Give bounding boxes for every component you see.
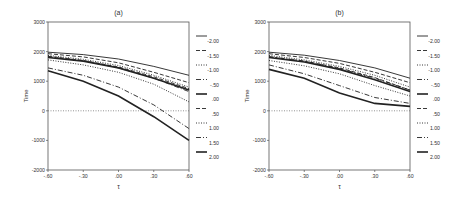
y-tick-label: 2000 xyxy=(254,49,266,55)
x-axis-label: τ xyxy=(338,183,341,190)
legend-label: -2.00 xyxy=(428,38,440,44)
legend-label: -1.00 xyxy=(428,67,440,73)
y-tick-label: 0 xyxy=(42,108,45,114)
y-tick-label: 3000 xyxy=(33,19,45,25)
y-tick-label: -1000 xyxy=(253,137,266,143)
legend-label: .50 xyxy=(433,111,440,117)
x-tick-label: -.30 xyxy=(79,173,88,179)
x-tick-label: -.60 xyxy=(44,173,53,179)
x-tick-label: .30 xyxy=(371,173,378,179)
panel-title: (a) xyxy=(114,9,123,17)
legend-label: -1.00 xyxy=(207,67,219,73)
legend-label: .50 xyxy=(212,111,219,117)
legend-label: 1.50 xyxy=(209,140,219,146)
y-axis-label: Time xyxy=(23,89,29,103)
legend-label: 1.50 xyxy=(430,140,440,146)
x-tick-label: .60 xyxy=(406,173,413,179)
x-tick-label: -.60 xyxy=(265,173,274,179)
x-axis-label: τ xyxy=(117,183,120,190)
y-tick-label: 3000 xyxy=(254,19,266,25)
x-tick-label: .00 xyxy=(336,173,343,179)
y-tick-label: 1000 xyxy=(33,78,45,84)
legend-label: 1.00 xyxy=(430,125,440,131)
chart-panel-b: (b)3000200010000-1000-2000-.60-.30.00.30… xyxy=(244,9,440,190)
series-line xyxy=(48,58,189,91)
legend-label: -1.50 xyxy=(428,53,440,59)
legend-label: .00 xyxy=(433,96,440,102)
y-axis-label: Time xyxy=(244,89,250,103)
series-line xyxy=(269,61,410,97)
panel-title: (b) xyxy=(335,9,344,17)
legend-label: 1.00 xyxy=(209,125,219,131)
legend-label: 2.00 xyxy=(430,154,440,160)
y-tick-label: -1000 xyxy=(32,137,45,143)
chart-panel-a: (a)3000200010000-1000-2000-.60-.30.00.30… xyxy=(23,9,219,190)
series-line xyxy=(269,69,410,106)
legend-label: -2.00 xyxy=(207,38,219,44)
plot-frame xyxy=(269,22,410,170)
x-tick-label: .30 xyxy=(150,173,157,179)
chart-canvas: (a)3000200010000-1000-2000-.60-.30.00.30… xyxy=(0,0,457,202)
x-tick-label: .00 xyxy=(115,173,122,179)
legend-label: 2.00 xyxy=(209,154,219,160)
x-tick-label: .60 xyxy=(185,173,192,179)
figure: (a)3000200010000-1000-2000-.60-.30.00.30… xyxy=(0,0,457,202)
series-line xyxy=(48,57,189,92)
x-tick-label: -.30 xyxy=(300,173,309,179)
legend-label: -.50 xyxy=(210,82,219,88)
legend-label: -1.50 xyxy=(207,53,219,59)
y-tick-label: 1000 xyxy=(254,78,266,84)
legend-label: .00 xyxy=(212,96,219,102)
y-tick-label: 2000 xyxy=(33,49,45,55)
y-tick-label: 0 xyxy=(263,108,266,114)
legend-label: -.50 xyxy=(431,82,440,88)
